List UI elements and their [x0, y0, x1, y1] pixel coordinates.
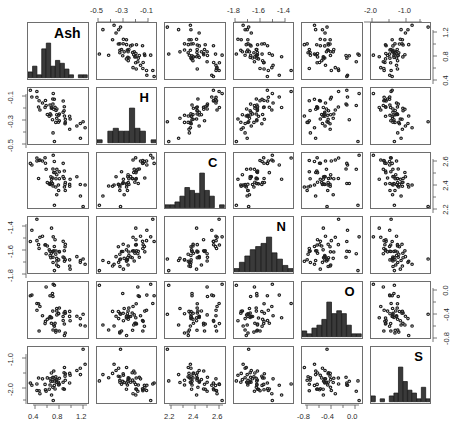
tick-label: 2.6	[441, 156, 450, 166]
diagonal-histogram-n: N	[233, 216, 295, 274]
tick-label: -1.8	[6, 269, 15, 282]
scatter-panel-ash-vs-n	[27, 216, 89, 274]
tick-label: 0.0	[347, 412, 357, 421]
scatter-panel-ash-vs-s	[27, 346, 89, 404]
scatter-panel-s-vs-c	[370, 152, 432, 210]
left-axis-row-5: -1.0 -2.0	[8, 348, 27, 410]
scatterplot-matrix: -0.5 -0.3 -0.1 -1.8 -1.6 -1.4 -2.0 -1.0 …	[0, 0, 457, 432]
tick-label: -0.4	[321, 412, 334, 421]
variable-label-s: S	[414, 350, 423, 363]
tick-label: 2.4	[441, 180, 450, 190]
scatter-panel-n-vs-s	[233, 346, 295, 404]
tick-label: -0.3	[115, 6, 128, 15]
tick-label: 1.2	[76, 412, 86, 421]
scatter-panel-o-vs-h	[301, 87, 363, 145]
scatter-panel-ash-vs-o	[27, 281, 89, 339]
tick-label: -0.8	[442, 332, 451, 345]
scatter-panel-n-vs-ash	[233, 22, 295, 80]
right-axis-row-0: 1.2 0.8 0.4	[432, 26, 454, 88]
left-axis-row-3: -1.4 -1.6 -1.8	[8, 220, 27, 282]
tick-label: 0.8	[52, 412, 62, 421]
scatter-panel-c-vs-n	[164, 216, 226, 274]
scatter-panel-c-vs-h	[164, 87, 226, 145]
tick-label: 2.2	[441, 204, 450, 214]
tick-label: 1.2	[441, 27, 450, 37]
scatter-panel-o-vs-s	[301, 346, 363, 404]
top-axis-col-1: -0.5 -0.3 -0.1	[96, 6, 156, 20]
scatter-panel-s-vs-o	[370, 281, 432, 339]
scatter-panel-o-vs-c	[301, 152, 363, 210]
tick-label: 2.2	[164, 412, 174, 421]
tick-label: -1.6	[6, 245, 15, 258]
variable-label-n: N	[277, 220, 286, 233]
bottom-axis-col-4: -0.8 -0.4 0.0	[300, 404, 364, 420]
tick-label: -1.0	[6, 353, 15, 366]
tick-label: -0.1	[6, 91, 15, 104]
scatter-panel-c-vs-o	[164, 281, 226, 339]
scatter-panel-s-vs-ash	[370, 22, 432, 80]
scatter-panel-s-vs-h	[370, 87, 432, 145]
tick-label: -0.5	[90, 6, 103, 15]
variable-label-c: C	[208, 156, 217, 169]
scatter-panel-h-vs-o	[96, 281, 158, 339]
scatter-panel-h-vs-c	[96, 152, 158, 210]
scatter-panel-c-vs-ash	[164, 22, 226, 80]
diagonal-histogram-o: O	[301, 281, 363, 339]
right-axis-row-2: 2.6 2.4 2.2	[432, 155, 454, 217]
scatter-panel-n-vs-o	[233, 281, 295, 339]
diagonal-histogram-ash: Ash	[27, 22, 89, 80]
tick-label: 0.4	[441, 75, 450, 85]
left-axis-row-1: -0.1 -0.3 -0.5	[8, 90, 27, 152]
tick-label: 0.8	[441, 51, 450, 61]
diagonal-histogram-h: H	[96, 87, 158, 145]
right-axis-row-4: 0.0 -0.4 -0.8	[432, 284, 454, 346]
scatter-panel-o-vs-n	[301, 216, 363, 274]
diagonal-histogram-c: C	[164, 152, 226, 210]
tick-label: -1.6	[252, 6, 265, 15]
tick-label: -1.4	[277, 6, 290, 15]
scatter-panel-h-vs-n	[96, 216, 158, 274]
scatter-panel-h-vs-s	[96, 346, 158, 404]
tick-label: -1.0	[398, 6, 411, 15]
tick-label: -0.4	[442, 308, 451, 321]
scatter-panel-ash-vs-h	[27, 87, 89, 145]
bottom-axis-col-2: 2.2 2.4 2.6	[165, 404, 227, 420]
variable-label-h: H	[140, 91, 149, 104]
tick-label: -0.3	[6, 115, 15, 128]
scatter-panel-s-vs-n	[370, 216, 432, 274]
variable-label-o: O	[344, 285, 354, 298]
top-axis-col-3: -1.8 -1.6 -1.4	[233, 6, 293, 20]
tick-label: 0.4	[28, 412, 38, 421]
tick-label: -2.0	[6, 383, 15, 396]
scatter-panel-h-vs-ash	[96, 22, 158, 80]
tick-label: -1.8	[227, 6, 240, 15]
tick-label: -0.1	[140, 6, 153, 15]
tick-label: 2.4	[188, 412, 198, 421]
scatter-panel-o-vs-ash	[301, 22, 363, 80]
tick-label: -2.0	[364, 6, 377, 15]
tick-label: 2.6	[212, 412, 222, 421]
scatter-panel-n-vs-h	[233, 87, 295, 145]
scatter-panel-ash-vs-c	[27, 152, 89, 210]
tick-label: -0.8	[297, 412, 310, 421]
tick-label: -0.5	[6, 139, 15, 152]
tick-label: 0.0	[441, 285, 450, 295]
tick-label: -1.4	[6, 221, 15, 234]
top-axis-col-5: -2.0 -1.0	[360, 6, 424, 20]
panel-grid: AshHCNOS	[27, 22, 431, 404]
variable-label-ash: Ash	[54, 26, 80, 40]
scatter-panel-c-vs-s	[164, 346, 226, 404]
scatter-panel-n-vs-c	[233, 152, 295, 210]
bottom-axis-col-0: 0.4 0.8 1.2	[29, 404, 91, 420]
diagonal-histogram-s: S	[370, 346, 432, 404]
